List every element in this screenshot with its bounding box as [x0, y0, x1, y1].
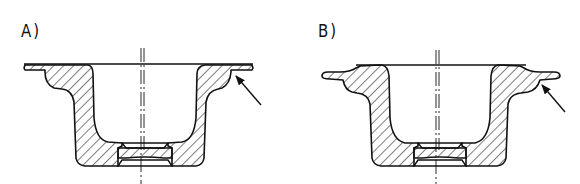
panel-b-right-wall-section	[462, 65, 560, 166]
technical-drawing	[0, 0, 580, 184]
panel-b-arrow	[542, 85, 565, 112]
panel-a-left-wall-section	[24, 65, 122, 166]
panel-a-arrow	[236, 76, 261, 105]
panel-b-drawing	[322, 50, 565, 184]
panel-a-drawing	[24, 48, 261, 184]
panel-b-bottom-section	[414, 148, 466, 158]
panel-a-bottom-foot	[118, 160, 172, 166]
panel-a-bottom-recess	[122, 143, 168, 148]
panel-b-bottom-foot	[414, 160, 466, 166]
panel-b-bottom-recess	[418, 143, 462, 148]
panel-b-left-wall-section	[322, 65, 418, 166]
panel-a-bottom-section	[118, 148, 172, 158]
